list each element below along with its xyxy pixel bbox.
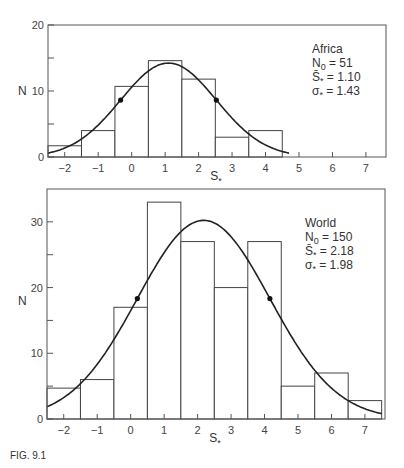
legend-africa: Africa N0 = 51 S̄* = 1.10 σ* = 1.43 bbox=[312, 42, 361, 100]
histogram-bar bbox=[80, 380, 113, 419]
mean-symbol: S̄ bbox=[305, 244, 313, 258]
histogram-bar bbox=[148, 61, 181, 157]
inflection-point-marker bbox=[267, 296, 272, 301]
y-tick-label: 20 bbox=[31, 282, 43, 294]
inflection-point-marker bbox=[135, 296, 140, 301]
sigma-value: = 1.43 bbox=[323, 84, 360, 98]
histogram-bars bbox=[48, 61, 282, 157]
x-axis-label: S* bbox=[209, 431, 221, 448]
histogram-bar bbox=[115, 86, 148, 157]
africa-histogram-panel: −2−101234567 01020 N S* Africa N0 = 51 S… bbox=[18, 19, 386, 186]
x-tick-label: 7 bbox=[362, 424, 368, 436]
x-tick-label: 3 bbox=[229, 162, 235, 174]
x-tick-label: 5 bbox=[295, 424, 301, 436]
x-tick-label: −1 bbox=[91, 424, 104, 436]
histogram-bar bbox=[315, 373, 348, 419]
y-axis-label: N bbox=[18, 84, 27, 98]
inflection-point-marker bbox=[214, 97, 219, 102]
y-tick-label: 0 bbox=[37, 413, 43, 425]
y-tick-label: 20 bbox=[32, 19, 44, 31]
n0-symbol: N bbox=[312, 56, 321, 70]
histogram-bar bbox=[181, 242, 214, 419]
x-tick-label: 1 bbox=[161, 424, 167, 436]
x-tick-label: 5 bbox=[296, 162, 302, 174]
x-tick-label: 3 bbox=[228, 424, 234, 436]
x-axis-label-sub: * bbox=[217, 438, 221, 448]
n0-symbol: N bbox=[305, 230, 314, 244]
mean-value: = 1.10 bbox=[324, 70, 361, 84]
histogram-bar bbox=[147, 202, 180, 419]
x-tick-label: −1 bbox=[92, 162, 105, 174]
histogram-bar bbox=[214, 288, 247, 419]
x-tick-label: −2 bbox=[57, 424, 70, 436]
legend-world: World N0 = 150 S̄* = 2.18 σ* = 1.98 bbox=[305, 216, 354, 274]
legend-sigma: σ* = 1.98 bbox=[305, 258, 353, 274]
figure-canvas: −2−101234567 01020 N S* Africa N0 = 51 S… bbox=[0, 0, 404, 468]
x-tick-label: 6 bbox=[328, 424, 334, 436]
x-tick-label: 0 bbox=[128, 424, 134, 436]
legend-sigma: σ* = 1.43 bbox=[312, 84, 360, 100]
histogram-bar bbox=[182, 79, 215, 157]
x-tick-label: 2 bbox=[196, 162, 202, 174]
x-axis-label-main: S bbox=[209, 431, 217, 445]
x-tick-label: 4 bbox=[261, 424, 267, 436]
mean-symbol: S̄ bbox=[312, 70, 320, 84]
world-histogram-panel: −2−101234567 0102030 N S* World N0 = 150… bbox=[18, 189, 385, 448]
x-tick-label: −2 bbox=[58, 162, 71, 174]
mean-value: = 2.18 bbox=[317, 244, 354, 258]
legend-title: Africa bbox=[312, 42, 343, 56]
x-tick-label: 0 bbox=[129, 162, 135, 174]
y-tick-label: 30 bbox=[31, 216, 43, 228]
x-axis-label: S* bbox=[210, 169, 222, 186]
x-axis-label-sub: * bbox=[218, 176, 222, 186]
x-axis-label-main: S bbox=[210, 169, 218, 183]
x-tick-label: 2 bbox=[195, 424, 201, 436]
sigma-value: = 1.98 bbox=[316, 258, 353, 272]
x-tick-label: 7 bbox=[363, 162, 369, 174]
figure-caption: FIG. 9.1 bbox=[10, 450, 46, 461]
x-tick-label: 6 bbox=[329, 162, 335, 174]
y-tick-label: 0 bbox=[38, 151, 44, 163]
y-axis-ticks: 01020 bbox=[32, 19, 54, 163]
legend-title: World bbox=[305, 216, 336, 230]
histogram-bar bbox=[114, 307, 147, 419]
n0-value: = 51 bbox=[326, 56, 353, 70]
y-axis-label: N bbox=[18, 294, 27, 308]
x-tick-label: 1 bbox=[162, 162, 168, 174]
y-tick-label: 10 bbox=[31, 347, 43, 359]
inflection-point-marker bbox=[118, 97, 123, 102]
n0-value: = 150 bbox=[319, 230, 353, 244]
y-tick-label: 10 bbox=[32, 85, 44, 97]
x-tick-label: 4 bbox=[262, 162, 268, 174]
